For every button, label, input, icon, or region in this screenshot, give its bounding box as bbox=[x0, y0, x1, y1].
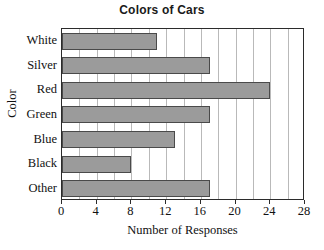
bar-slot bbox=[62, 54, 303, 79]
x-axis-title: Number of Responses bbox=[61, 223, 304, 238]
bar bbox=[62, 57, 210, 74]
y-axis-tick-label: Blue bbox=[1, 133, 57, 145]
x-axis-tick-labels: 0481216202428 bbox=[0, 204, 324, 222]
y-axis-tick-label: Silver bbox=[1, 59, 57, 71]
bar-chart: Colors of Cars Color WhiteSilverRedGreen… bbox=[0, 0, 324, 250]
x-axis-tick-label: 4 bbox=[81, 204, 111, 219]
bar bbox=[62, 131, 175, 148]
x-axis-tick-label: 16 bbox=[185, 204, 215, 219]
x-axis-tick-label: 28 bbox=[289, 204, 319, 219]
bar bbox=[62, 82, 270, 99]
bar-slot bbox=[62, 78, 303, 103]
x-axis-tick-label: 8 bbox=[115, 204, 145, 219]
x-axis-tick-label: 0 bbox=[46, 204, 76, 219]
x-axis-tick-label: 12 bbox=[150, 204, 180, 219]
bar-slot bbox=[62, 29, 303, 54]
bar bbox=[62, 156, 131, 173]
chart-title: Colors of Cars bbox=[0, 3, 324, 17]
bar bbox=[62, 33, 157, 50]
y-axis-tick-label: Black bbox=[1, 157, 57, 169]
bar-slot bbox=[62, 176, 303, 201]
y-axis-tick-label: Green bbox=[1, 108, 57, 120]
bar bbox=[62, 106, 210, 123]
x-axis-tick-label: 20 bbox=[220, 204, 250, 219]
bar-slot bbox=[62, 103, 303, 128]
y-axis-tick-label: Other bbox=[1, 182, 57, 194]
y-axis-tick-labels: WhiteSilverRedGreenBlueBlackOther bbox=[0, 28, 57, 200]
x-axis-tick-label: 24 bbox=[254, 204, 284, 219]
y-axis-tick-label: Red bbox=[1, 83, 57, 95]
y-axis-tick-label: White bbox=[1, 34, 57, 46]
bar bbox=[62, 180, 210, 197]
bar-series bbox=[62, 29, 303, 199]
bar-slot bbox=[62, 127, 303, 152]
bar-slot bbox=[62, 152, 303, 177]
plot-area bbox=[61, 28, 304, 200]
